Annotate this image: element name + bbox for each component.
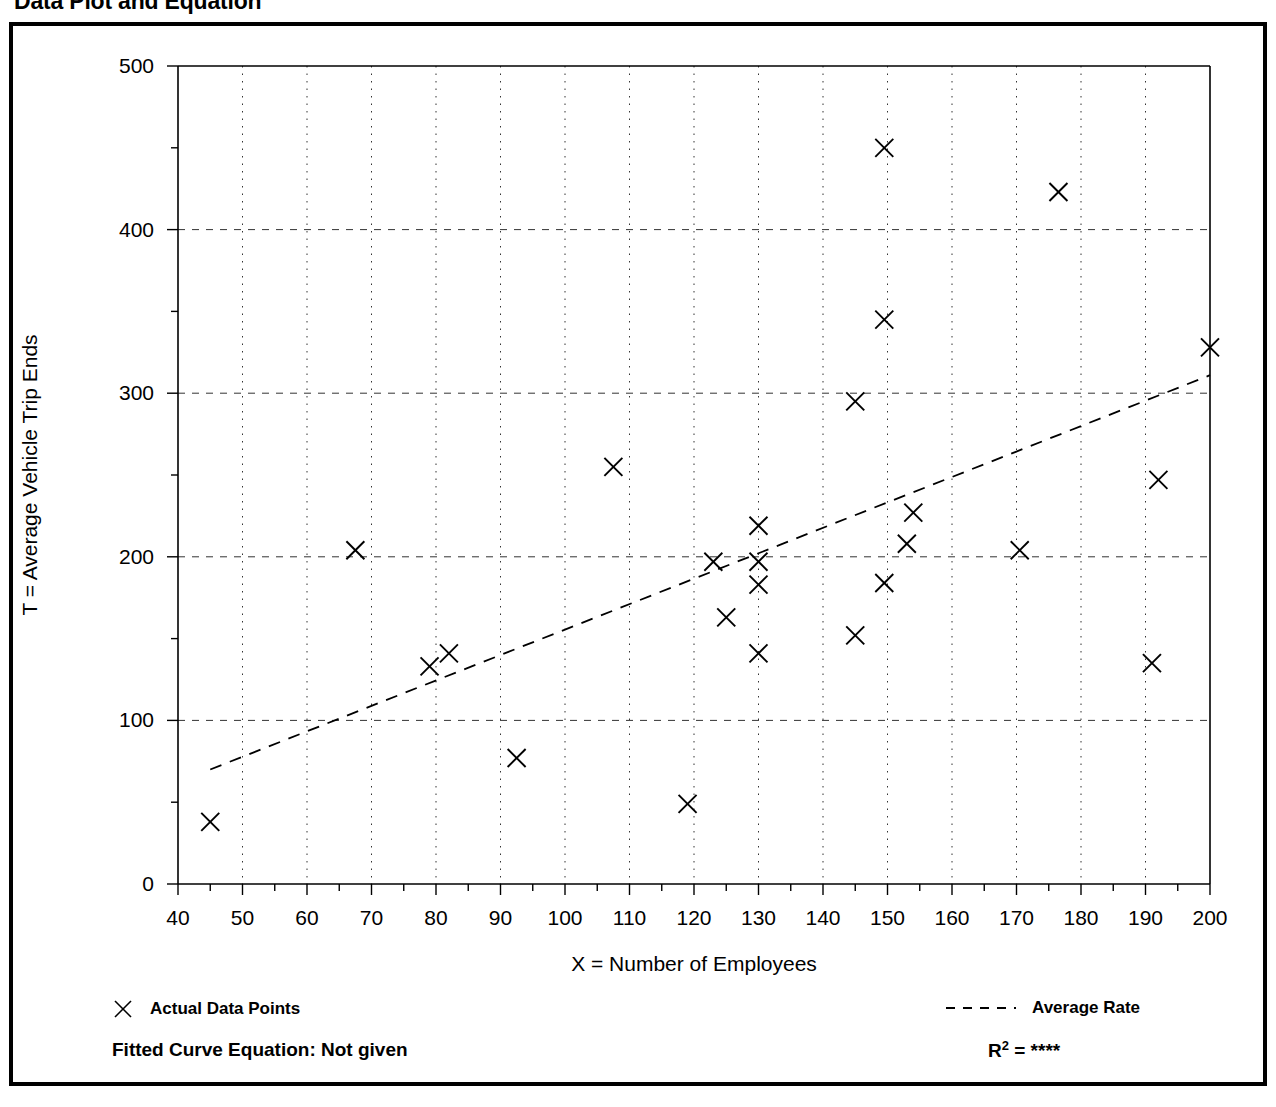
x-tick-label: 100 (547, 906, 582, 930)
y-tick-label: 100 (94, 708, 154, 732)
y-tick-label: 200 (94, 545, 154, 569)
legend-item-average-rate: Average Rate (946, 998, 1140, 1018)
x-tick-label: 70 (360, 906, 383, 930)
x-tick-label: 160 (934, 906, 969, 930)
y-tick-label: 400 (94, 218, 154, 242)
r-squared-prefix: R (988, 1040, 1002, 1061)
y-tick-label: 0 (94, 872, 154, 896)
x-tick-label: 40 (166, 906, 189, 930)
r-squared-number: = **** (1014, 1040, 1060, 1061)
x-tick-label: 60 (295, 906, 318, 930)
axis-ticks (167, 66, 1210, 895)
legend-item-actual-data-points: Actual Data Points (112, 998, 300, 1020)
x-tick-label: 170 (999, 906, 1034, 930)
data-point-marker (904, 504, 922, 522)
data-point-marker (508, 749, 526, 767)
data-point-marker (440, 644, 458, 662)
data-point-marker (346, 541, 364, 559)
data-point-marker (750, 553, 768, 571)
data-point-marker (846, 626, 864, 644)
x-tick-label: 120 (676, 906, 711, 930)
x-tick-label: 110 (613, 906, 646, 930)
legend-label-average-rate: Average Rate (1032, 998, 1140, 1018)
x-tick-label: 150 (870, 906, 905, 930)
legend-label-actual-data-points: Actual Data Points (150, 999, 300, 1019)
data-point-marker (875, 311, 893, 329)
x-marker-icon (112, 998, 134, 1020)
x-tick-label: 140 (805, 906, 840, 930)
data-point-marker (1143, 654, 1161, 672)
chart-page: Data Plot and Equation T = Average Vehic… (0, 0, 1276, 1107)
data-point-marker (875, 139, 893, 157)
fitted-curve-equation: Fitted Curve Equation: Not given (112, 1039, 408, 1061)
data-point-marker (1049, 183, 1067, 201)
chart-figure: T = Average Vehicle Trip Ends X = Number… (0, 0, 1276, 1107)
x-tick-label: 90 (489, 906, 512, 930)
x-tick-label: 80 (424, 906, 447, 930)
data-point-marker (1149, 471, 1167, 489)
y-tick-label: 300 (94, 381, 154, 405)
x-tick-label: 130 (741, 906, 776, 930)
y-axis-title: T = Average Vehicle Trip Ends (18, 334, 42, 615)
x-tick-label: 200 (1192, 906, 1227, 930)
data-point-markers (201, 139, 1219, 831)
r-squared-value: R2 = **** (988, 1038, 1060, 1062)
x-tick-label: 50 (231, 906, 254, 930)
data-point-marker (679, 795, 697, 813)
average-rate-trendline (210, 375, 1210, 769)
data-point-marker (201, 813, 219, 831)
scatter-plot-canvas (0, 0, 1276, 1107)
grid-lines-minor (243, 66, 1146, 884)
y-tick-label: 500 (94, 54, 154, 78)
x-tick-label: 180 (1063, 906, 1098, 930)
dashed-line-icon (946, 1007, 1016, 1009)
grid-lines-major (178, 230, 1210, 721)
r-squared-exponent: 2 (1002, 1038, 1009, 1053)
data-point-marker (704, 553, 722, 571)
data-point-marker (717, 608, 735, 626)
x-axis-title: X = Number of Employees (571, 952, 817, 976)
data-point-marker (875, 574, 893, 592)
data-point-marker (898, 535, 916, 553)
x-tick-label: 190 (1128, 906, 1163, 930)
data-point-marker (604, 458, 622, 476)
data-point-marker (750, 576, 768, 594)
data-point-marker (846, 392, 864, 410)
